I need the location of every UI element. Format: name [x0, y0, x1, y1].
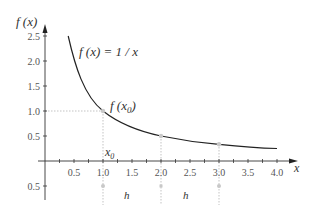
svg-text:1.0: 1.0: [28, 106, 41, 117]
guide-lines: [45, 111, 219, 205]
marker-h-mid: [160, 185, 163, 188]
marker-h2-end: [217, 184, 221, 188]
svg-text:1.0: 1.0: [97, 167, 110, 178]
point-x1: [101, 109, 105, 113]
function-label: f (x) = 1 / x: [79, 44, 138, 59]
x-axis-label: x: [293, 161, 300, 175]
svg-text:0.5: 0.5: [28, 131, 41, 142]
x0-label: x0: [104, 145, 114, 161]
svg-text:1.5: 1.5: [126, 167, 139, 178]
svg-text:1.5: 1.5: [28, 81, 41, 92]
svg-text:3.0: 3.0: [213, 167, 226, 178]
svg-text:0.5: 0.5: [28, 181, 41, 192]
point-x2: [159, 134, 163, 138]
svg-text:2.0: 2.0: [28, 56, 41, 67]
svg-text:2.0: 2.0: [155, 167, 168, 178]
svg-text:0.5: 0.5: [68, 167, 81, 178]
point-x3: [217, 142, 221, 146]
fx0-label: f (x0): [110, 98, 136, 115]
marker-h1-start: [101, 184, 105, 188]
y-axis-label: f (x): [16, 14, 37, 29]
y-tick-labels: 0.5 1.0 1.5 2.0 2.5 0.5: [28, 31, 41, 192]
svg-text:2.5: 2.5: [28, 31, 41, 42]
y-axis-arrow-icon: [43, 24, 48, 33]
svg-text:4.0: 4.0: [271, 167, 284, 178]
x-tick-labels: 0.5 1.0 1.5 2.0 2.5 3.0 3.5 4.0: [68, 167, 284, 178]
svg-text:2.5: 2.5: [184, 167, 197, 178]
h-label-1: h: [124, 189, 130, 201]
svg-text:3.5: 3.5: [242, 167, 255, 178]
h-label-2: h: [183, 189, 189, 201]
chart: 0.5 1.0 1.5 2.0 2.5 3.0 3.5 4.0 0.5 1.0 …: [0, 0, 313, 211]
